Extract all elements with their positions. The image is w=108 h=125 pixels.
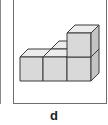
cube-top-right <box>67 25 99 57</box>
cube-figure <box>0 0 108 125</box>
panel-label: d <box>0 108 108 123</box>
